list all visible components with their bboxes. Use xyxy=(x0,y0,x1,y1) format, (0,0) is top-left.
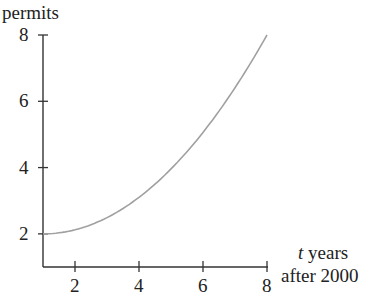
x-axis-label-line2: after 2000 xyxy=(281,265,359,286)
y-axis-label: permits xyxy=(2,2,59,23)
x-tick-label: 2 xyxy=(70,275,80,295)
permits-curve xyxy=(43,35,267,234)
y-tick-label: 8 xyxy=(19,24,29,45)
y-tick-label: 6 xyxy=(19,90,29,111)
y-tick-label: 4 xyxy=(19,157,29,178)
x-tick-label: 8 xyxy=(262,275,272,295)
chart-canvas: 2468 2468 permits t years after 2000 xyxy=(0,0,366,295)
y-tick-label: 2 xyxy=(19,223,29,244)
x-axis-label-line1: t years xyxy=(298,242,348,263)
x-ticks: 2468 xyxy=(70,261,272,295)
x-tick-label: 6 xyxy=(198,275,208,295)
x-tick-label: 4 xyxy=(134,275,144,295)
x-axis-unit: years xyxy=(303,242,348,263)
